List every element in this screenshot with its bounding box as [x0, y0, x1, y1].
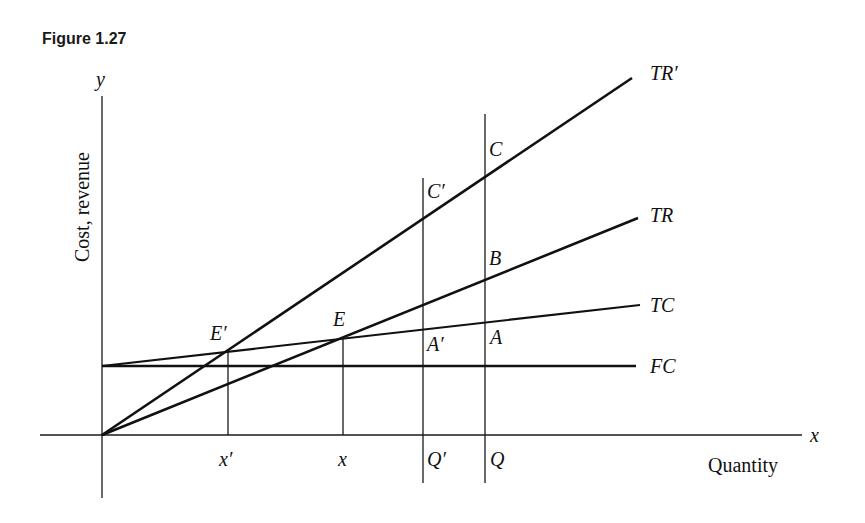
- tr-prime-line: [102, 78, 632, 435]
- point-c-prime-label: C′: [427, 180, 445, 202]
- tr-line: [102, 218, 638, 435]
- point-b-label: B: [489, 247, 501, 269]
- y-axis-label: Cost, revenue: [71, 152, 93, 262]
- point-a-prime-label: A′: [425, 333, 444, 355]
- point-e-label: E: [332, 308, 345, 330]
- q-tick-label: Q: [490, 448, 505, 470]
- tc-label: TC: [650, 294, 675, 316]
- tr-label: TR: [650, 204, 673, 226]
- x-prime-tick-label: x′: [218, 448, 233, 470]
- tc-line: [102, 305, 640, 366]
- y-axis-symbol: y: [94, 68, 105, 91]
- fc-label: FC: [649, 355, 676, 377]
- x-axis-symbol: x: [809, 424, 819, 446]
- x-axis-label: Quantity: [708, 454, 778, 477]
- x-tick-label: x: [337, 448, 347, 470]
- break-even-diagram: y x Cost, revenue Quantity TR′ TR TC FC …: [0, 0, 865, 523]
- point-c-label: C: [489, 138, 503, 160]
- q-prime-tick-label: Q′: [427, 448, 446, 470]
- point-e-prime-label: E′: [209, 322, 227, 344]
- point-a-label: A: [488, 326, 503, 348]
- tr-prime-label: TR′: [650, 62, 678, 84]
